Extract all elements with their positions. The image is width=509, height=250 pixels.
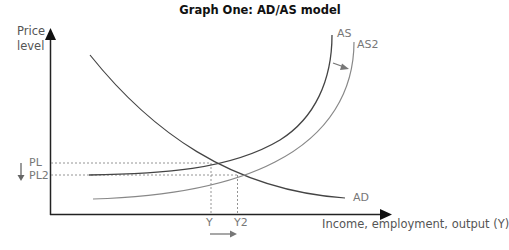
- pl2-label: PL2: [29, 170, 49, 182]
- y-axis-label-line2: level: [17, 40, 45, 52]
- as2-label: AS2: [357, 39, 379, 51]
- x-axis-label: Income, employment, output (Y): [322, 218, 509, 230]
- ad-curve: [90, 55, 345, 198]
- pl-label: PL: [29, 157, 42, 169]
- y2-label: Y2: [234, 217, 248, 229]
- y-axis-label: Price level: [17, 25, 45, 52]
- as-shift-arrowhead-icon: [340, 64, 349, 71]
- y-label: Y: [206, 217, 213, 229]
- as-label: AS: [337, 28, 352, 40]
- ad-label: AD: [353, 192, 369, 204]
- pl-down-arrowhead-icon: [18, 175, 25, 181]
- y-axis-arrow-icon: [45, 28, 56, 40]
- y-axis-label-line1: Price: [17, 25, 45, 37]
- as-curve: [89, 35, 332, 175]
- y-right-arrowhead-icon: [230, 231, 237, 238]
